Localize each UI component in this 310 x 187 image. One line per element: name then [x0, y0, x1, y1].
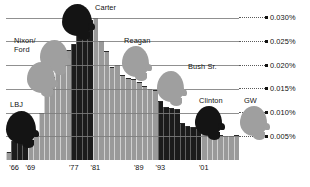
annotation-carter-label: Carter — [95, 3, 116, 12]
tick-marker-icon — [265, 16, 268, 19]
y-axis-tick: 0.030% — [239, 13, 296, 23]
y-axis-tick: 0.025% — [239, 36, 296, 46]
tick-leader — [239, 17, 265, 18]
presidential-bar-chart: 0.030%0.025%0.020%0.015%0.010%0.005% '66… — [0, 0, 310, 187]
x-axis-tick-label: '77 — [69, 163, 79, 172]
x-axis-labels: '66'69'77'81'89'93'01 — [6, 163, 239, 179]
x-axis-tick-label: '89 — [134, 163, 144, 172]
annotation-reagan-label: Reagan — [124, 36, 151, 45]
annotation-bush-sr-label: Bush Sr. — [188, 62, 217, 71]
annotation-ford-label: Ford — [14, 45, 30, 54]
bush-sr-silhouette-icon — [157, 71, 184, 102]
y-axis-tick-label: 0.020% — [270, 61, 296, 70]
annotation-nixon-label: Nixon/ — [14, 36, 36, 45]
tick-leader — [239, 65, 265, 66]
y-axis-tick: 0.020% — [239, 60, 296, 70]
y-axis-tick-label: 0.030% — [270, 13, 296, 22]
gw-silhouette-icon — [240, 106, 267, 136]
tick-marker-icon — [265, 87, 268, 90]
tick-marker-icon — [265, 111, 268, 114]
carter-silhouette-icon — [62, 4, 92, 36]
ford-silhouette-icon — [27, 62, 55, 93]
y-axis-tick: 0.015% — [239, 84, 296, 94]
tick-leader — [239, 88, 265, 89]
x-axis-tick-label: '66 — [9, 163, 19, 172]
annotation-gw-label: GW — [244, 96, 257, 105]
lbj-silhouette-icon — [6, 111, 36, 144]
y-axis-tick-label: 0.025% — [270, 37, 296, 46]
reagan-silhouette-icon — [122, 46, 149, 77]
tick-marker-icon — [265, 40, 268, 43]
y-axis-tick-label: 0.010% — [270, 108, 296, 117]
clinton-silhouette-icon — [195, 106, 222, 136]
x-axis-tick-label: '01 — [199, 163, 209, 172]
tick-marker-icon — [265, 135, 268, 138]
tick-marker-icon — [265, 64, 268, 67]
annotation-lbj-label: LBJ — [10, 100, 23, 109]
x-axis-tick-label: '93 — [156, 163, 166, 172]
y-axis-tick-label: 0.015% — [270, 84, 296, 93]
tick-leader — [239, 41, 265, 42]
annotation-clinton-label: Clinton — [199, 96, 223, 105]
x-axis-tick-label: '81 — [91, 163, 101, 172]
y-axis-labels: 0.030%0.025%0.020%0.015%0.010%0.005% — [239, 8, 310, 160]
y-axis-tick-label: 0.005% — [270, 132, 296, 141]
x-axis-tick-label: '69 — [26, 163, 36, 172]
